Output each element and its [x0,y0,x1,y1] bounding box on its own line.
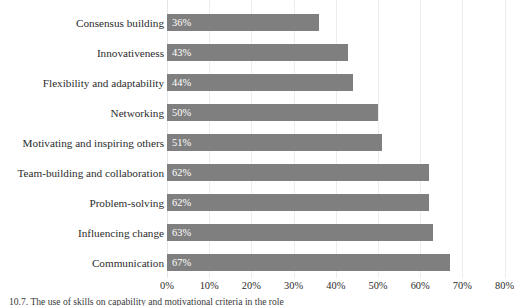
bar: 62% [167,194,429,211]
bar-value-label: 44% [172,77,191,89]
x-tick-label: 0% [160,280,174,292]
category-label: Motivating and inspiring others [23,136,164,149]
bar-value-label: 63% [172,227,191,239]
x-axis: 0%10%20%30%40%50%60%70%80% [0,278,513,294]
x-tick-label: 30% [284,280,303,292]
bar-value-label: 36% [172,17,191,29]
bar-row: Consensus building36% [0,14,513,31]
bar: 67% [167,254,450,271]
bar-row: Communication67% [0,254,513,271]
x-tick-label: 40% [326,280,345,292]
category-label: Networking [111,106,164,119]
bar: 62% [167,164,429,181]
bar-value-label: 67% [172,257,191,269]
bar: 63% [167,224,433,241]
category-label: Innovativeness [97,46,164,59]
bar-row: Motivating and inspiring others51% [0,134,513,151]
x-tick-label: 60% [411,280,430,292]
category-label: Problem-solving [89,196,164,209]
category-label: Team-building and collaboration [18,166,164,179]
bar-row: Influencing change63% [0,224,513,241]
bar-row: Team-building and collaboration62% [0,164,513,181]
x-tick-label: 70% [453,280,472,292]
caption-text: 10.7. The use of skills on capability an… [9,296,509,306]
x-tick-label: 80% [495,280,514,292]
bar: 43% [167,44,348,61]
x-tick-label: 50% [368,280,387,292]
bar-rows: Consensus building36%Innovativeness43%Fl… [0,0,513,278]
bar-row: Flexibility and adaptability44% [0,74,513,91]
bar: 36% [167,14,319,31]
figure-caption: 10.7. The use of skills on capability an… [9,296,509,306]
category-label: Influencing change [78,226,164,239]
bar-value-label: 51% [172,137,191,149]
chart-plot-area: Consensus building36%Innovativeness43%Fl… [0,0,513,285]
category-label: Flexibility and adaptability [43,76,164,89]
bar: 51% [167,134,382,151]
category-label: Communication [92,256,164,269]
x-tick-label: 10% [200,280,219,292]
bar: 50% [167,104,378,121]
bar-value-label: 50% [172,107,191,119]
bar-row: Problem-solving62% [0,194,513,211]
category-label: Consensus building [76,16,164,29]
bar-value-label: 62% [172,167,191,179]
bar-row: Innovativeness43% [0,44,513,61]
x-tick-label: 20% [242,280,261,292]
bar-value-label: 43% [172,47,191,59]
bar-value-label: 62% [172,197,191,209]
bar: 44% [167,74,353,91]
bar-row: Networking50% [0,104,513,121]
